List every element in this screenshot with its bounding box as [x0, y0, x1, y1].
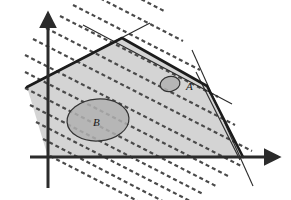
geometry-figure: AB: [0, 0, 291, 200]
polygon-layer: [27, 38, 243, 157]
label-B: B: [93, 116, 100, 128]
label-A: A: [185, 80, 193, 92]
level-line: [50, 156, 163, 200]
feasible-region: [27, 38, 243, 157]
figure-container: AB: [0, 0, 291, 200]
